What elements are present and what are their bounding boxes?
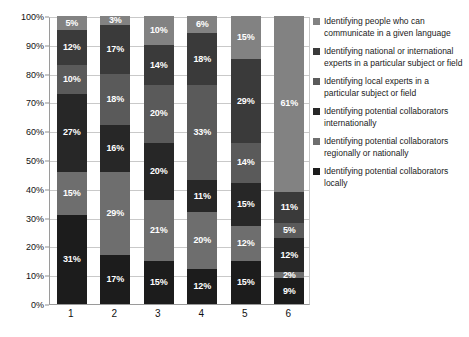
bar-segment: 3%	[100, 16, 130, 25]
y-tick-label: 10%	[0, 272, 44, 281]
bar-segment: 15%	[57, 172, 87, 215]
legend-label: Identifying potential collaborators loca…	[324, 166, 465, 189]
x-axis: 123456	[49, 309, 310, 329]
bar-segment: 15%	[144, 261, 174, 304]
legend-label: Identifying local experts in a particula…	[324, 76, 465, 99]
bar-segment: 20%	[144, 143, 174, 201]
bar-segment: 17%	[100, 25, 130, 74]
bar-segment-label: 6%	[196, 20, 209, 29]
bar-segment-label: 17%	[107, 45, 124, 54]
bar-segment-label: 17%	[107, 275, 124, 284]
x-tick-label: 2	[94, 309, 134, 319]
x-tick-label: 3	[138, 309, 178, 319]
bar-segment-label: 10%	[63, 75, 80, 84]
gridline	[50, 46, 309, 47]
legend-label: Identifying potential collaborators inte…	[324, 106, 465, 129]
gridline	[50, 276, 309, 277]
x-tick-label: 4	[181, 309, 221, 319]
bar-segment-label: 20%	[150, 167, 167, 176]
bar-segment-label: 14%	[237, 158, 254, 167]
bar-segment-label: 5%	[283, 226, 296, 235]
chart-legend: Identifying people who can communicate i…	[313, 16, 465, 196]
y-tick-label: 50%	[0, 157, 44, 166]
legend-swatch-icon	[313, 138, 320, 145]
bar-segment: 27%	[57, 94, 87, 172]
gridline	[50, 103, 309, 104]
bar-segment: 15%	[231, 261, 261, 304]
bar-segment-label: 21%	[150, 226, 167, 235]
y-tick-label: 60%	[0, 128, 44, 137]
legend-swatch-icon	[313, 108, 320, 115]
bar-segment: 12%	[187, 269, 217, 304]
stacked-bar-chart: 0%10%20%30%40%50%60%70%80%90%100% 5%12%1…	[0, 0, 469, 337]
bar-segment: 10%	[57, 65, 87, 94]
bar-segment-label: 15%	[150, 278, 167, 287]
bar-segment-label: 20%	[194, 236, 211, 245]
bar-segment: 11%	[274, 192, 304, 224]
bar-column: 15%29%14%15%12%15%	[231, 16, 261, 304]
bar-segment: 12%	[274, 238, 304, 273]
legend-item[interactable]: Identifying potential collaborators regi…	[313, 136, 465, 159]
bar-segment-label: 27%	[63, 128, 80, 137]
y-axis: 0%10%20%30%40%50%60%70%80%90%100%	[0, 17, 44, 305]
bar-segment: 9%	[274, 278, 304, 304]
bar-segment: 14%	[144, 45, 174, 85]
bar-segment: 20%	[144, 85, 174, 143]
bar-segment: 33%	[187, 85, 217, 180]
legend-item[interactable]: Identifying potential collaborators loca…	[313, 166, 465, 189]
y-tick-label: 70%	[0, 99, 44, 108]
bar-segment-label: 11%	[194, 192, 211, 201]
bar-segment-label: 3%	[109, 16, 122, 25]
bar-segment: 5%	[274, 223, 304, 237]
bar-segment-label: 12%	[63, 43, 80, 52]
bar-segment-label: 12%	[281, 251, 298, 260]
bar-segment: 15%	[231, 16, 261, 59]
gridline	[50, 247, 309, 248]
bar-segment-label: 16%	[107, 144, 124, 153]
legend-label: Identifying potential collaborators regi…	[324, 136, 465, 159]
bar-segment-label: 12%	[194, 282, 211, 291]
gridline	[50, 190, 309, 191]
y-tick-label: 20%	[0, 243, 44, 252]
bar-column: 3%17%18%16%29%17%	[100, 16, 130, 304]
legend-swatch-icon	[313, 168, 320, 175]
bar-segment-label: 61%	[281, 99, 298, 108]
gridline	[50, 161, 309, 162]
bar-segment-label: 18%	[107, 95, 124, 104]
bar-segment: 6%	[187, 16, 217, 33]
bar-segment-label: 10%	[150, 26, 167, 35]
bar-segment: 21%	[144, 200, 174, 260]
bar-segment: 11%	[187, 180, 217, 212]
bar-segment: 29%	[231, 59, 261, 143]
bar-segment-label: 5%	[65, 19, 78, 28]
bar-segment: 14%	[231, 143, 261, 183]
bar-segment: 15%	[231, 183, 261, 226]
bar-segment-label: 29%	[107, 209, 124, 218]
bar-segment: 12%	[57, 30, 87, 65]
legend-item[interactable]: Identifying people who can communicate i…	[313, 16, 465, 39]
bar-segment: 31%	[57, 215, 87, 304]
bar-segment: 16%	[100, 125, 130, 171]
bar-segment-label: 33%	[194, 128, 211, 137]
bar-segment: 5%	[57, 16, 87, 30]
y-tick-label: 80%	[0, 70, 44, 79]
gridline	[50, 219, 309, 220]
legend-swatch-icon	[313, 48, 320, 55]
bar-segment-label: 15%	[237, 278, 254, 287]
legend-item[interactable]: Identifying local experts in a particula…	[313, 76, 465, 99]
bar-segment-label: 12%	[237, 239, 254, 248]
bar-column: 61%11%5%12%2%9%	[274, 16, 304, 304]
bar-segment: 12%	[231, 226, 261, 261]
bar-segment-label: 31%	[63, 255, 80, 264]
bar-segment: 17%	[100, 255, 130, 304]
bar-segment-label: 15%	[237, 33, 254, 42]
bar-segment: 61%	[274, 16, 304, 192]
bar-segment: 18%	[100, 74, 130, 126]
legend-item[interactable]: Identifying potential collaborators inte…	[313, 106, 465, 129]
x-tick-label: 1	[51, 309, 91, 319]
bar-segment-label: 9%	[283, 287, 296, 296]
bar-segment: 18%	[187, 33, 217, 85]
legend-item[interactable]: Identifying national or international ex…	[313, 46, 465, 69]
y-tick-label: 30%	[0, 214, 44, 223]
legend-label: Identifying national or international ex…	[324, 46, 465, 69]
